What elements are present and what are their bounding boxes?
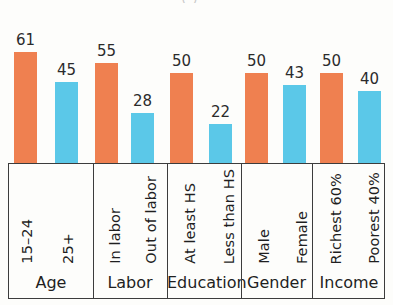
bar-value-label: 55 [97, 42, 116, 60]
group-name-label: Income [312, 273, 386, 292]
rotated-category-labels: 15–2425+ [9, 164, 93, 264]
group-name-label: Education [167, 273, 241, 292]
bar-value-label: 50 [247, 52, 266, 70]
plot-area: 61455528502250435040 [0, 0, 393, 164]
bar-value-label: 50 [322, 52, 341, 70]
bar-column [320, 73, 343, 164]
bar: 43 [283, 0, 306, 164]
rotated-category-labels: At least HSLess than HS [167, 164, 241, 264]
bar: 22 [209, 0, 232, 164]
category-label-text: In labor [108, 208, 123, 264]
category-label-text: Out of labor [144, 176, 159, 264]
category-label-text: 15–24 [20, 219, 35, 264]
rotated-category-labels: In laborOut of labor [93, 164, 167, 264]
group-name-label: Gender [241, 273, 312, 292]
bar: 55 [95, 0, 118, 164]
bar: 50 [320, 0, 343, 164]
bar-value-label: 45 [57, 61, 76, 79]
rotated-category-labels: MaleFemale [241, 164, 312, 264]
group-name-label: Age [9, 273, 93, 292]
category-label-text: Less than HS [222, 169, 237, 264]
group-name-label: Labor [93, 273, 167, 292]
category-group: MaleFemaleGender [241, 164, 312, 298]
rotated-category-labels: Richest 60%Poorest 40% [312, 164, 386, 264]
bar: 50 [170, 0, 193, 164]
bar-value-label: 40 [360, 70, 379, 88]
bar: 28 [131, 0, 154, 164]
bar-value-label: 61 [16, 31, 35, 49]
bar-column [95, 63, 118, 164]
bar: 50 [245, 0, 268, 164]
category-label-text: Male [257, 229, 272, 264]
bar-column [358, 91, 381, 164]
bar-column [55, 82, 78, 164]
category-group: In laborOut of laborLabor [93, 164, 167, 298]
category-label-text: Poorest 40% [367, 172, 382, 264]
bar-column [245, 73, 268, 164]
bar: 61 [14, 0, 37, 164]
category-label-box: 15–2425+AgeIn laborOut of laborLaborAt l… [8, 163, 385, 299]
category-group: 15–2425+Age [9, 164, 93, 298]
category-label-text: At least HS [183, 183, 198, 264]
bar-column [283, 85, 306, 164]
bar: 40 [358, 0, 381, 164]
bar-value-label: 22 [211, 103, 230, 121]
category-label-text: Female [295, 211, 310, 264]
bar-value-label: 50 [172, 52, 191, 70]
bar-column [209, 124, 232, 164]
bar-chart: ( ) 61455528502250435040 15–2425+AgeIn l… [0, 0, 393, 305]
bar-column [14, 52, 37, 164]
bar-column [170, 73, 193, 164]
bar-column [131, 113, 154, 164]
category-group: Richest 60%Poorest 40%Income [312, 164, 386, 298]
bar-value-label: 28 [133, 92, 152, 110]
bar-value-label: 43 [285, 64, 304, 82]
category-group: At least HSLess than HSEducation [167, 164, 241, 298]
category-label-text: Richest 60% [329, 173, 344, 264]
category-label-text: 25+ [61, 233, 76, 264]
bar: 45 [55, 0, 78, 164]
